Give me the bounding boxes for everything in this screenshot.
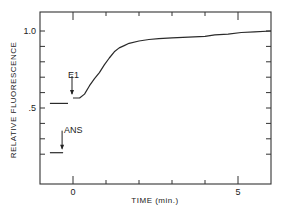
y-tick-label: .5 (28, 103, 36, 113)
series-line (73, 31, 271, 98)
data-series (50, 31, 271, 153)
annotations: ANSE1 (60, 70, 83, 150)
x-axis: 05 (70, 12, 240, 197)
annotation-label: ANS (64, 125, 83, 135)
y-axis-label: RELATIVE FLUORESCENCE (9, 42, 18, 159)
x-axis-label: TIME (min.) (131, 196, 178, 205)
y-axis: .51.0 (23, 26, 271, 154)
x-tick-label: 0 (70, 187, 75, 197)
annotation-label: E1 (68, 70, 79, 80)
y-tick-label: 1.0 (23, 26, 36, 36)
arrowhead-icon (60, 145, 64, 150)
fluorescence-chart: .51.0 05 ANSE1 TIME (min.) RELATIVE FLUO… (0, 0, 286, 210)
arrowhead-icon (70, 90, 74, 95)
x-tick-label: 5 (235, 187, 240, 197)
